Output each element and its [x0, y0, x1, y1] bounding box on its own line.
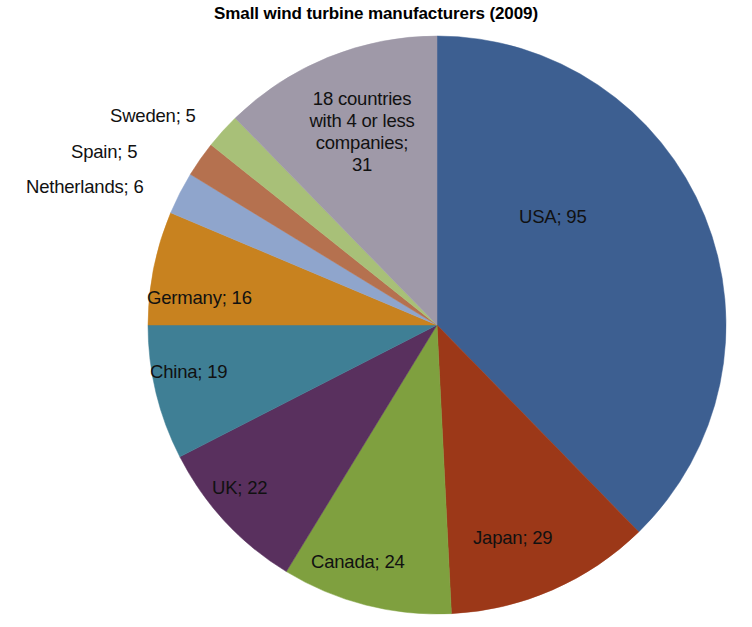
slice-label-other-line4: 31 — [288, 154, 436, 176]
slice-label-japan: Japan; 29 — [473, 527, 552, 549]
slice-label-china: China; 19 — [150, 361, 227, 383]
slice-label-netherlands: Netherlands; 6 — [26, 176, 144, 198]
slice-label-other-line1: 18 countries — [288, 88, 436, 110]
slice-label-other: 18 countries with 4 or less companies; 3… — [288, 88, 436, 176]
slice-label-uk: UK; 22 — [212, 477, 267, 499]
slice-label-sweden: Sweden; 5 — [110, 105, 196, 127]
slice-label-germany: Germany; 16 — [147, 287, 252, 309]
slice-label-usa: USA; 95 — [519, 206, 587, 228]
slice-label-canada: Canada; 24 — [311, 551, 405, 573]
pie-slice-group — [148, 36, 726, 614]
pie-chart: Small wind turbine manufacturers (2009) … — [0, 0, 752, 627]
slice-label-spain: Spain; 5 — [71, 141, 137, 163]
slice-label-other-line2: with 4 or less — [288, 110, 436, 132]
slice-label-other-line3: companies; — [288, 132, 436, 154]
